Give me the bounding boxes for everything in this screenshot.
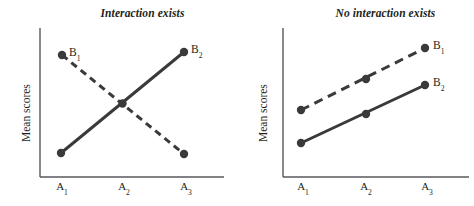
x-tick-a1-sub: 1 [305,188,309,197]
series-label-b1: B1 [69,46,80,58]
series-b1-point-a1 [297,106,305,114]
series-b2-point-a1 [57,149,65,157]
plot-area [237,0,474,206]
series-label-b1-sub: 1 [441,47,445,56]
x-tick-a3-sub: 3 [429,188,433,197]
series-label-b2-sub: 2 [199,51,203,60]
x-tick-label-a3: A3 [180,180,192,192]
series-label-b1-sub: 1 [77,54,81,63]
series-label-b2: B2 [191,43,202,55]
series-label-b2: B2 [433,76,444,88]
series-b2-point-a3 [421,81,429,89]
series-b2-point-a2 [362,110,370,118]
series-label-b1-text: B [69,46,77,58]
x-tick-label-a2: A2 [118,180,130,192]
series-b1-point-a3 [421,44,429,52]
x-tick-a3-text: A [421,180,429,192]
x-tick-a2-sub: 2 [126,188,130,197]
plot-area [0,0,237,206]
series-label-b2-text: B [191,43,199,55]
x-tick-a1-sub: 1 [64,188,68,197]
series-b2-point-a1 [297,139,305,147]
x-tick-label-a1: A1 [56,180,68,192]
x-tick-label-a3: A3 [421,180,433,192]
x-tick-a2-text: A [118,180,126,192]
series-b1-point-a3 [180,150,188,158]
series-label-b1: B1 [433,39,444,51]
x-tick-a2-sub: 2 [368,188,372,197]
series-b1-point-a1 [58,51,66,59]
panel-interaction-exists: Interaction exists Mean scores B1 B2 A1 [0,0,237,206]
crossing-point-marker [118,99,126,107]
two-panel-interaction-figure: Interaction exists Mean scores B1 B2 A1 [0,0,474,206]
x-tick-a1-text: A [56,180,64,192]
panel-no-interaction-exists: No interaction exists Mean scores B1 B2 … [237,0,474,206]
x-tick-a3-sub: 3 [188,188,192,197]
x-tick-label-a1: A1 [297,180,309,192]
series-label-b2-sub: 2 [441,84,445,93]
series-label-b2-text: B [433,76,441,88]
series-b1-point-a2 [362,75,370,83]
x-tick-a1-text: A [297,180,305,192]
x-tick-a3-text: A [180,180,188,192]
series-b2-point-a3 [180,48,188,56]
x-tick-a2-text: A [360,180,368,192]
x-tick-label-a2: A2 [360,180,372,192]
series-label-b1-text: B [433,39,441,51]
